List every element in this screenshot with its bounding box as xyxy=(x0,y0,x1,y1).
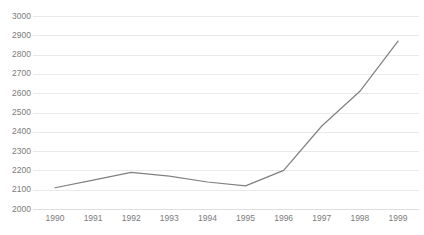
x-axis: 1990199119921993199419951996199719981999 xyxy=(33,212,419,226)
x-axis-tick-label: 1990 xyxy=(36,212,74,224)
chart-title xyxy=(0,0,424,9)
gridline xyxy=(33,74,419,75)
y-axis-tick-label: 3000 xyxy=(1,12,31,21)
line-chart: 2000210022002300240025002600270028002900… xyxy=(0,0,424,235)
x-axis-tick-label: 1995 xyxy=(227,212,265,224)
gridline xyxy=(33,16,419,17)
gridline xyxy=(33,35,419,36)
y-axis-tick-label: 2800 xyxy=(1,50,31,59)
y-axis: 2000210022002300240025002600270028002900… xyxy=(0,0,31,235)
x-axis-tick-label: 1994 xyxy=(188,212,226,224)
plot-area xyxy=(33,16,419,209)
gridline xyxy=(33,170,419,171)
gridline xyxy=(33,132,419,133)
y-axis-tick-label: 2500 xyxy=(1,108,31,117)
y-axis-tick-label: 2100 xyxy=(1,185,31,194)
x-axis-tick-label: 1998 xyxy=(341,212,379,224)
gridline xyxy=(33,209,419,210)
x-axis-tick-label: 1992 xyxy=(112,212,150,224)
gridline xyxy=(33,151,419,152)
x-axis-tick-label: 1996 xyxy=(265,212,303,224)
y-axis-tick-label: 2200 xyxy=(1,166,31,175)
gridline xyxy=(33,93,419,94)
gridline xyxy=(33,190,419,191)
y-axis-tick-label: 2900 xyxy=(1,31,31,40)
gridline xyxy=(33,55,419,56)
x-axis-tick-label: 1999 xyxy=(379,212,417,224)
y-axis-tick-label: 2700 xyxy=(1,69,31,78)
y-axis-tick-label: 2600 xyxy=(1,89,31,98)
y-axis-tick-label: 2300 xyxy=(1,147,31,156)
y-axis-tick-label: 2400 xyxy=(1,127,31,136)
y-axis-tick-label: 2000 xyxy=(1,205,31,214)
x-axis-tick-label: 1993 xyxy=(150,212,188,224)
gridline xyxy=(33,113,419,114)
x-axis-tick-label: 1997 xyxy=(303,212,341,224)
x-axis-tick-label: 1991 xyxy=(74,212,112,224)
